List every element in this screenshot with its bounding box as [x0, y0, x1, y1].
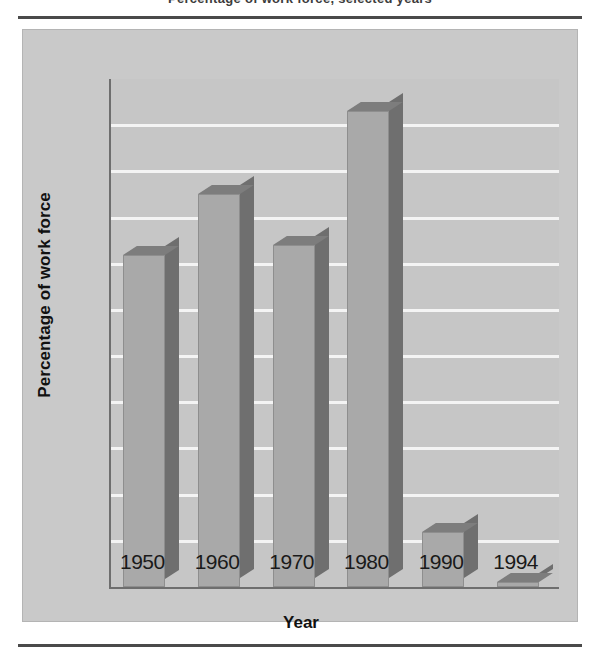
bar-front-face [497, 582, 539, 587]
top-divider-rule [18, 16, 582, 19]
x-axis-label: Year [23, 613, 579, 633]
chart-figure: Percentage of work force, selected years… [0, 0, 600, 658]
gridline [111, 170, 559, 173]
x-tick-label: 1980 [326, 550, 406, 574]
x-tick-label: 1960 [177, 550, 257, 574]
bar-front-face [123, 255, 165, 588]
bar-front-face [347, 111, 389, 587]
gridline [111, 217, 559, 220]
bar-front-face [198, 194, 240, 587]
plot-area [109, 79, 559, 589]
x-tick-label: 1950 [102, 550, 182, 574]
bar-side-face [165, 236, 179, 578]
chart-panel: Percentage of work force Year 1516171819… [22, 29, 578, 622]
bar-side-face [315, 227, 329, 578]
gridline [111, 124, 559, 127]
y-axis-label: Percentage of work force [35, 105, 55, 485]
bar-front-face [273, 245, 315, 587]
bar-side-face [240, 176, 254, 578]
bar-top-face [497, 573, 553, 582]
bar-1994[interactable] [497, 582, 539, 587]
x-tick-label: 1990 [401, 550, 481, 574]
bar-1950[interactable] [123, 255, 165, 588]
bar-side-face [389, 93, 403, 578]
bottom-divider-rule [18, 644, 582, 647]
x-tick-label: 1970 [252, 550, 332, 574]
x-tick-label: 1994 [476, 550, 556, 574]
clipped-chart-title: Percentage of work force, selected years [0, 0, 600, 7]
bar-1980[interactable] [347, 111, 389, 587]
bar-1960[interactable] [198, 194, 240, 587]
bar-1970[interactable] [273, 245, 315, 587]
